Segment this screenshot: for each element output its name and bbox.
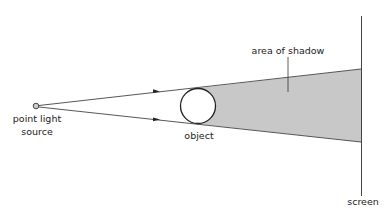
point-light-source [33, 103, 39, 109]
shadow-area [199, 69, 361, 142]
source-label-line1: point light [13, 113, 62, 124]
shadow-diagram: point light source object area of shadow… [0, 0, 388, 219]
source-label-line2: source [21, 126, 53, 137]
object-label: object [184, 130, 214, 141]
object-circle [181, 89, 216, 124]
shadow-label: area of shadow [252, 45, 325, 56]
lower-ray-arrow-icon [153, 118, 160, 122]
screen-label: screen [347, 196, 379, 207]
